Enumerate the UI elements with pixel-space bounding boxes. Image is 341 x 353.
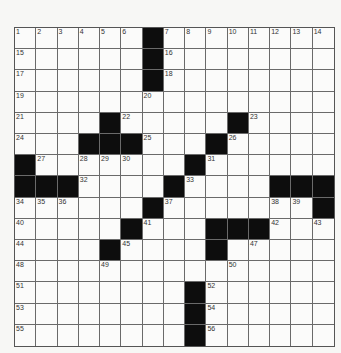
grid-cell[interactable] [313,113,334,134]
grid-cell[interactable] [143,261,164,282]
grid-cell[interactable] [313,49,334,70]
grid-cell[interactable] [291,240,312,261]
grid-cell[interactable]: 50 [228,261,249,282]
grid-cell[interactable] [164,282,185,303]
grid-cell[interactable] [228,155,249,176]
grid-cell[interactable] [249,325,270,346]
grid-cell[interactable]: 38 [270,198,291,219]
grid-cell[interactable] [58,92,79,113]
grid-cell[interactable]: 9 [206,28,227,49]
grid-cell[interactable] [185,49,206,70]
grid-cell[interactable] [36,282,57,303]
grid-cell[interactable] [270,325,291,346]
grid-cell[interactable]: 25 [143,134,164,155]
grid-cell[interactable] [58,304,79,325]
grid-cell[interactable] [121,176,142,197]
grid-cell[interactable] [36,49,57,70]
grid-cell[interactable]: 32 [79,176,100,197]
grid-cell[interactable]: 20 [143,92,164,113]
grid-cell[interactable]: 39 [291,198,312,219]
grid-cell[interactable] [164,240,185,261]
grid-cell[interactable] [206,176,227,197]
grid-cell[interactable] [291,261,312,282]
grid-cell[interactable] [164,325,185,346]
grid-cell[interactable] [36,261,57,282]
grid-cell[interactable] [58,240,79,261]
grid-cell[interactable]: 30 [121,155,142,176]
grid-cell[interactable] [143,325,164,346]
grid-cell[interactable] [58,49,79,70]
grid-cell[interactable] [143,113,164,134]
grid-cell[interactable]: 42 [270,219,291,240]
grid-cell[interactable] [291,92,312,113]
grid-cell[interactable] [313,134,334,155]
grid-cell[interactable] [228,49,249,70]
grid-cell[interactable] [206,198,227,219]
grid-cell[interactable]: 27 [36,155,57,176]
grid-cell[interactable] [249,304,270,325]
grid-cell[interactable]: 43 [313,219,334,240]
grid-cell[interactable]: 51 [15,282,36,303]
grid-cell[interactable] [164,304,185,325]
grid-cell[interactable] [291,49,312,70]
grid-cell[interactable]: 45 [121,240,142,261]
grid-cell[interactable] [36,304,57,325]
grid-cell[interactable] [58,219,79,240]
grid-cell[interactable] [228,198,249,219]
grid-cell[interactable] [58,325,79,346]
grid-cell[interactable] [270,240,291,261]
grid-cell[interactable]: 56 [206,325,227,346]
grid-cell[interactable] [228,325,249,346]
grid-cell[interactable] [185,92,206,113]
grid-cell[interactable] [249,155,270,176]
grid-cell[interactable] [291,134,312,155]
grid-cell[interactable] [313,325,334,346]
grid-cell[interactable] [185,219,206,240]
grid-cell[interactable] [228,92,249,113]
grid-cell[interactable] [121,304,142,325]
grid-cell[interactable] [164,134,185,155]
grid-cell[interactable] [36,219,57,240]
grid-cell[interactable]: 5 [100,28,121,49]
grid-cell[interactable]: 49 [100,261,121,282]
grid-cell[interactable] [185,134,206,155]
grid-cell[interactable]: 37 [164,198,185,219]
grid-cell[interactable] [58,113,79,134]
grid-cell[interactable] [100,198,121,219]
grid-cell[interactable] [313,70,334,91]
grid-cell[interactable] [291,304,312,325]
grid-cell[interactable]: 31 [206,155,227,176]
grid-cell[interactable] [164,219,185,240]
grid-cell[interactable] [270,261,291,282]
grid-cell[interactable] [121,49,142,70]
grid-cell[interactable] [206,92,227,113]
grid-cell[interactable] [79,219,100,240]
grid-cell[interactable]: 40 [15,219,36,240]
grid-cell[interactable] [79,92,100,113]
grid-cell[interactable] [270,155,291,176]
grid-cell[interactable] [249,134,270,155]
grid-cell[interactable] [228,304,249,325]
grid-cell[interactable] [313,155,334,176]
grid-cell[interactable]: 33 [185,176,206,197]
grid-cell[interactable] [228,240,249,261]
grid-cell[interactable]: 14 [313,28,334,49]
grid-cell[interactable] [143,240,164,261]
grid-cell[interactable] [249,176,270,197]
grid-cell[interactable] [58,134,79,155]
grid-cell[interactable] [270,113,291,134]
grid-cell[interactable] [185,240,206,261]
grid-cell[interactable]: 48 [15,261,36,282]
grid-cell[interactable] [313,92,334,113]
grid-cell[interactable]: 15 [15,49,36,70]
grid-cell[interactable] [79,304,100,325]
grid-cell[interactable]: 12 [270,28,291,49]
grid-cell[interactable] [249,70,270,91]
grid-cell[interactable]: 28 [79,155,100,176]
grid-cell[interactable]: 21 [15,113,36,134]
grid-cell[interactable] [270,49,291,70]
grid-cell[interactable]: 22 [121,113,142,134]
grid-cell[interactable]: 6 [121,28,142,49]
grid-cell[interactable]: 35 [36,198,57,219]
grid-cell[interactable] [164,261,185,282]
